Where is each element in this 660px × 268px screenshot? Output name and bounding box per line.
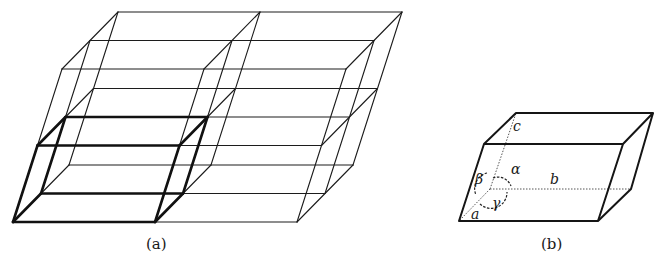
label-alpha: α [511, 161, 521, 177]
unit-cell-side-face [598, 113, 653, 221]
unit-cell-diagram: c α β b γ a (b) [0, 0, 660, 268]
label-gamma: γ [492, 195, 501, 211]
caption-b: (b) [541, 235, 562, 253]
label-b: b [550, 171, 559, 187]
label-c: c [513, 118, 521, 134]
label-a: a [471, 206, 479, 222]
unit-cell-front-face [459, 144, 623, 221]
label-beta: β [474, 171, 483, 187]
unit-cell-top-face [484, 113, 653, 144]
alpha-arc-icon [493, 177, 511, 186]
figure: (a) c α β b γ a (b) [0, 0, 660, 268]
